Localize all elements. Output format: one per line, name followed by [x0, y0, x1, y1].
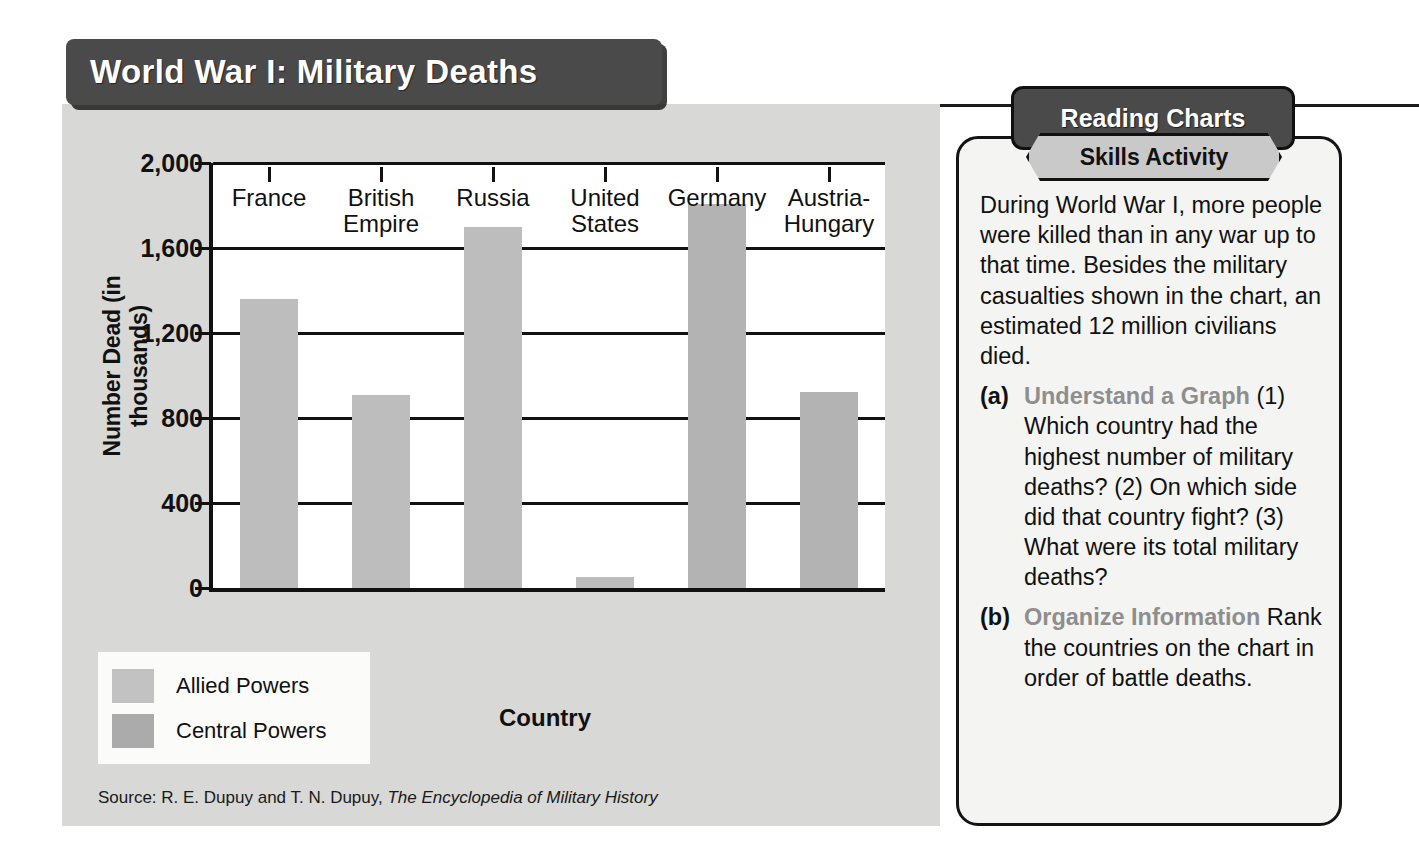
bar-germany	[688, 204, 746, 588]
chart-panel: Number Dead (in thousands) 04008001,2001…	[62, 104, 940, 826]
question-b-heading: Organize Information	[1024, 604, 1260, 630]
y-axis-tick-label: 1,600	[83, 234, 203, 263]
legend-item-allied: Allied Powers	[112, 669, 360, 703]
bar-russia	[464, 227, 522, 588]
x-axis-tick	[716, 167, 719, 182]
gridline	[213, 247, 885, 250]
question-b-marker: (b)	[980, 602, 1024, 693]
legend-swatch-allied	[112, 669, 154, 703]
y-axis-tick-label: 2,000	[83, 149, 203, 178]
gridline	[213, 332, 885, 335]
sidebar-body: During World War I, more people were kil…	[980, 190, 1325, 693]
chart-title: World War I: Military Deaths	[66, 53, 538, 91]
legend-item-central: Central Powers	[112, 714, 360, 748]
gridline	[213, 502, 885, 505]
bar-france	[240, 299, 298, 588]
legend-swatch-central	[112, 714, 154, 748]
bar-british-empire	[352, 395, 410, 588]
y-axis-tick-label: 800	[83, 404, 203, 433]
x-axis-tick	[268, 167, 271, 182]
chart-legend: Allied Powers Central Powers	[98, 652, 370, 764]
question-a-text: (1) Which country had the highest number…	[1024, 383, 1298, 590]
chart-title-banner: World War I: Military Deaths	[66, 39, 662, 105]
x-axis-tick	[828, 167, 831, 182]
x-axis-label: Austria- Hungary	[754, 185, 904, 237]
x-axis-tick	[380, 167, 383, 182]
y-axis-tick-label: 400	[83, 489, 203, 518]
question-a: (a) Understand a Graph (1) Which country…	[980, 381, 1325, 592]
bar-austria-hungary	[800, 392, 858, 588]
x-axis-tick	[492, 167, 495, 182]
gridline	[213, 417, 885, 420]
question-a-heading: Understand a Graph	[1024, 383, 1250, 409]
gridline	[213, 162, 885, 165]
y-axis-tick-label: 1,200	[83, 319, 203, 348]
source-title: The Encyclopedia of Military History	[387, 788, 657, 807]
legend-label-central: Central Powers	[176, 718, 326, 744]
question-b-body: Organize Information Rank the countries …	[1024, 602, 1325, 693]
plot-area: 04008001,2001,6002,000FranceBritish Empi…	[209, 163, 885, 592]
bar-united-states	[576, 577, 634, 588]
x-axis-tick	[604, 167, 607, 182]
reading-charts-label: Reading Charts	[1061, 104, 1246, 133]
y-axis-tick-label: 0	[83, 574, 203, 603]
question-b: (b) Organize Information Rank the countr…	[980, 602, 1325, 693]
sidebar-intro: During World War I, more people were kil…	[980, 190, 1325, 371]
source-note: Source: R. E. Dupuy and T. N. Dupuy, The…	[98, 788, 658, 808]
skills-activity-banner: Skills Activity	[1026, 133, 1282, 181]
skills-activity-label: Skills Activity	[1080, 144, 1229, 171]
source-prefix: Source: R. E. Dupuy and T. N. Dupuy,	[98, 788, 387, 807]
question-a-marker: (a)	[980, 381, 1024, 592]
legend-label-allied: Allied Powers	[176, 673, 309, 699]
question-a-body: Understand a Graph (1) Which country had…	[1024, 381, 1325, 592]
